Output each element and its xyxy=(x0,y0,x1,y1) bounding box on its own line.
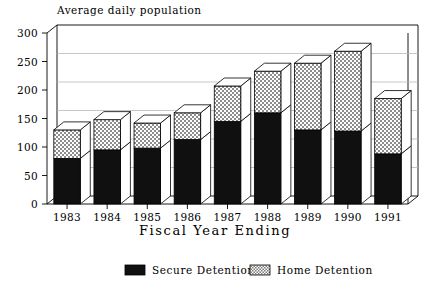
bar-side-home-detention xyxy=(321,55,331,130)
x-tick-label: 1990 xyxy=(334,211,362,223)
y-tick-label: 150 xyxy=(17,113,38,125)
bar-1986 xyxy=(174,105,210,204)
legend-label-home-detention: Home Detention xyxy=(277,264,373,276)
bar-1985 xyxy=(134,115,170,204)
legend-swatch-home-detention xyxy=(250,265,270,275)
bar-segment-secure-detention xyxy=(54,158,80,204)
bar-segment-secure-detention xyxy=(134,148,160,204)
bar-segment-home-detention xyxy=(254,71,280,113)
y-tick-label: 0 xyxy=(31,198,38,210)
y-tick-label: 100 xyxy=(17,141,38,153)
bar-side-secure-detention xyxy=(361,123,371,204)
bar-segment-secure-detention xyxy=(335,131,361,204)
bar-side-secure-detention xyxy=(161,140,171,204)
bar-side-home-detention xyxy=(281,63,291,113)
legend: Secure Detention Home Detention xyxy=(125,264,373,276)
plot-title: Average daily population xyxy=(56,4,202,16)
bar-side-secure-detention xyxy=(80,150,90,204)
bar-segment-home-detention xyxy=(94,120,120,150)
bar-1984 xyxy=(94,112,130,204)
bar-segment-secure-detention xyxy=(294,130,320,204)
bar-segment-home-detention xyxy=(335,51,361,131)
legend-label-secure-detention: Secure Detention xyxy=(152,264,255,276)
legend-swatch-secure-detention xyxy=(125,265,145,275)
bar-segment-home-detention xyxy=(174,113,200,140)
bar-segment-secure-detention xyxy=(94,150,120,204)
y-tick-label: 300 xyxy=(17,27,38,39)
bar-side-home-detention xyxy=(401,91,411,154)
chart-container: Average daily population xyxy=(0,0,431,292)
bar-side-secure-detention xyxy=(241,113,251,204)
x-tick-label: 1987 xyxy=(214,211,242,223)
bar-1987 xyxy=(214,78,250,204)
bar-segment-home-detention xyxy=(294,63,320,130)
y-tick-label: 250 xyxy=(17,56,38,68)
x-tick-label: 1991 xyxy=(374,211,402,223)
bar-segment-home-detention xyxy=(214,86,240,121)
bar-segment-secure-detention xyxy=(174,140,200,204)
bar-side-home-detention xyxy=(361,43,371,131)
bar-segment-home-detention xyxy=(375,99,401,154)
bar-side-secure-detention xyxy=(281,105,291,204)
bar-1991 xyxy=(375,91,411,204)
bar-side-secure-detention xyxy=(321,122,331,204)
bar-segment-secure-detention xyxy=(214,121,240,204)
y-tick-label: 50 xyxy=(24,170,38,182)
x-tick-label: 1988 xyxy=(254,211,282,223)
bar-1988 xyxy=(254,63,290,204)
x-axis-title: Fiscal Year Ending xyxy=(139,223,291,238)
x-tick-label: 1984 xyxy=(93,211,121,223)
bar-segment-secure-detention xyxy=(254,113,280,204)
bar-1989 xyxy=(294,55,330,204)
stacked-column-chart: Average daily population xyxy=(0,0,431,292)
bar-side-secure-detention xyxy=(120,142,130,204)
bar-1990 xyxy=(335,43,371,204)
x-tick-label: 1989 xyxy=(294,211,322,223)
bar-segment-home-detention xyxy=(54,130,80,159)
bar-1983 xyxy=(54,122,90,204)
y-tick-label: 200 xyxy=(17,84,38,96)
bar-side-secure-detention xyxy=(401,146,411,204)
x-tick-label: 1985 xyxy=(133,211,161,223)
x-tick-label: 1983 xyxy=(53,211,81,223)
bar-segment-home-detention xyxy=(134,123,160,148)
x-tick-label: 1986 xyxy=(173,211,201,223)
bar-segment-secure-detention xyxy=(375,154,401,204)
bar-side-secure-detention xyxy=(201,132,211,204)
